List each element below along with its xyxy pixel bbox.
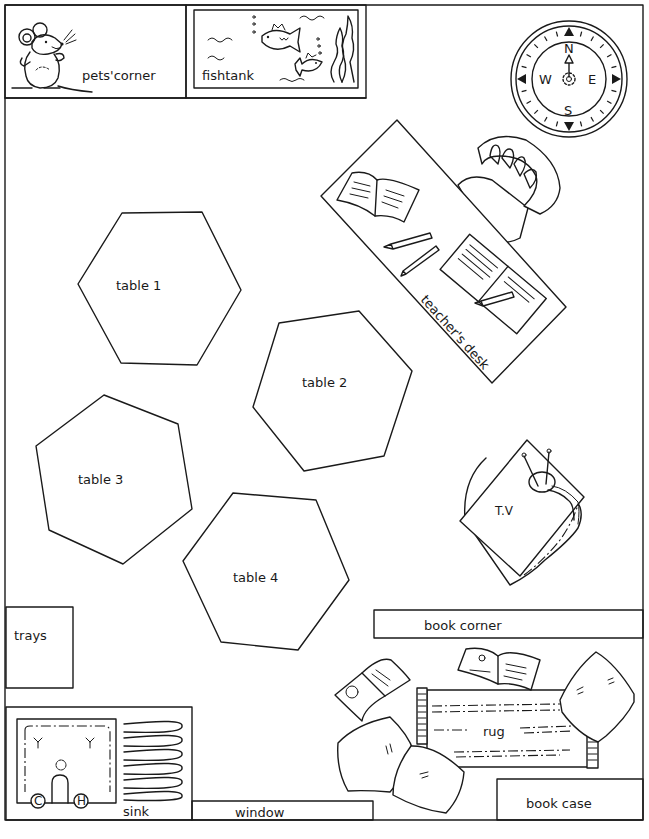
draining-board-icon: [124, 721, 182, 800]
fishtank[interactable]: fishtank: [186, 5, 366, 98]
table-4[interactable]: table 4: [183, 493, 349, 650]
book-corner-label: book corner: [424, 618, 502, 633]
sink-label: sink: [123, 804, 150, 819]
sink[interactable]: C H sink: [6, 707, 192, 820]
trays-label: trays: [14, 628, 47, 643]
sink-tap-hot[interactable]: H: [77, 794, 86, 808]
compass-east: E: [588, 72, 596, 87]
window[interactable]: window: [192, 801, 373, 820]
book-case-label: book case: [526, 796, 592, 811]
compass-south: S: [564, 103, 572, 118]
tv-label: T.V: [494, 504, 514, 518]
tv[interactable]: T.V: [460, 440, 584, 585]
table-4-label: table 4: [233, 570, 278, 585]
table-2[interactable]: table 2: [253, 311, 412, 471]
open-book-icon-4: [335, 659, 410, 721]
pets-corner[interactable]: pets'corner: [5, 5, 186, 98]
pets-corner-label: pets'corner: [82, 68, 156, 83]
rug-label: rug: [483, 724, 505, 739]
book-corner[interactable]: book corner: [374, 610, 643, 638]
table-2-label: table 2: [302, 375, 347, 390]
classroom-plan: pets'corner: [0, 0, 649, 839]
compass-west: W: [539, 72, 552, 87]
compass-north: N: [564, 41, 574, 56]
north-arrow-icon: [564, 27, 574, 36]
open-book-icon-3: [458, 648, 540, 690]
table-3[interactable]: table 3: [36, 395, 192, 564]
window-label: window: [235, 805, 285, 820]
table-3-label: table 3: [78, 472, 123, 487]
south-arrow-icon: [564, 122, 574, 131]
fishtank-label: fishtank: [202, 68, 255, 83]
east-arrow-icon: [612, 74, 621, 84]
west-arrow-icon: [517, 74, 526, 84]
sink-tap-cold[interactable]: C: [34, 794, 42, 808]
table-1[interactable]: table 1: [78, 212, 241, 365]
trays[interactable]: trays: [6, 607, 73, 688]
compass: N S E W: [511, 21, 627, 137]
book-case[interactable]: book case: [497, 779, 643, 820]
mouse-icon: [12, 23, 92, 92]
table-1-label: table 1: [116, 278, 161, 293]
